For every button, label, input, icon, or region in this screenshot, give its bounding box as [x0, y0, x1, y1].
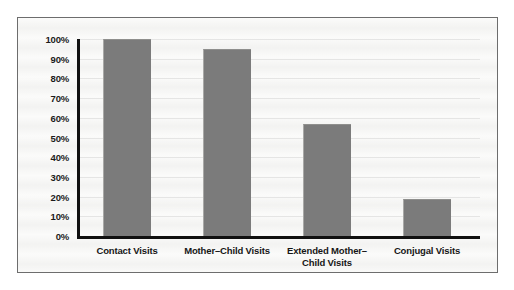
- x-axis-label: Conjugal Visits: [369, 245, 485, 257]
- y-axis-tick-label: 100%: [46, 34, 70, 45]
- bar: [403, 199, 451, 236]
- y-axis-tick-label: 30%: [51, 171, 69, 182]
- y-axis-tick-label: 60%: [51, 112, 69, 123]
- y-axis-line: [77, 39, 80, 236]
- x-axis-label-line: Conjugal Visits: [369, 245, 485, 257]
- chart-figure: 100%90%80%70%60%50%40%30%20%10%0% Contac…: [17, 17, 498, 273]
- bar: [103, 39, 151, 236]
- x-axis-line: [77, 236, 480, 239]
- x-axis-label: Mother–Child Visits: [169, 245, 285, 257]
- x-axis-label: Extended Mother–Child Visits: [269, 245, 385, 268]
- bar: [303, 124, 351, 236]
- x-axis-label-line: Extended Mother–: [269, 245, 385, 257]
- y-axis-tick-label: 70%: [51, 93, 69, 104]
- x-axis-label-line: Contact Visits: [69, 245, 185, 257]
- y-axis-tick-label: 50%: [51, 132, 69, 143]
- x-axis-label-line: Mother–Child Visits: [169, 245, 285, 257]
- y-axis-tick-label: 0%: [56, 231, 69, 242]
- y-axis-tick-label: 80%: [51, 73, 69, 84]
- bar: [203, 49, 251, 236]
- x-axis-label-line: Child Visits: [269, 257, 385, 269]
- y-axis-tick-label: 90%: [51, 53, 69, 64]
- y-axis-tick-label: 40%: [51, 152, 69, 163]
- x-axis-label: Contact Visits: [69, 245, 185, 257]
- plot-area: 100%90%80%70%60%50%40%30%20%10%0% Contac…: [77, 39, 477, 236]
- y-axis-tick-label: 10%: [51, 211, 69, 222]
- y-axis-tick-label: 20%: [51, 191, 69, 202]
